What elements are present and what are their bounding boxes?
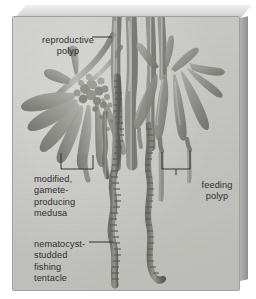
label-feeding-polyp: feeding polyp xyxy=(191,180,240,203)
medusa-cluster xyxy=(21,46,126,181)
label-reproductive-polyp: reproductive polyp xyxy=(34,35,102,58)
label-modified-gamete-producing-medusa: modified, gamete- producing medusa xyxy=(34,174,75,220)
illustration-plate: reproductive polyp modified, gamete- pro… xyxy=(12,16,240,291)
label-nematocyst-studded-fishing-tentacle: nematocyst- studded fishing tentacle xyxy=(34,239,85,285)
illustration-slab: reproductive polyp modified, gamete- pro… xyxy=(7,5,250,285)
figure-panel: reproductive polyp modified, gamete- pro… xyxy=(0,0,256,299)
feeding-polyp-bracket xyxy=(162,151,190,169)
